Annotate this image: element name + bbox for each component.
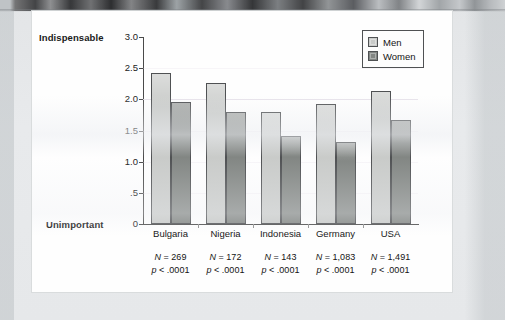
stat-annotation-usa: N = 1,491p < .0001 xyxy=(359,251,422,276)
stat-p-value: p < .0001 xyxy=(249,264,312,277)
stat-sample-size: N = 1,491 xyxy=(359,251,422,264)
gridline xyxy=(143,68,418,69)
bar-highlight xyxy=(172,103,190,129)
stat-annotation-indonesia: N = 143p < .0001 xyxy=(249,251,312,276)
stat-p-value: p < .0001 xyxy=(304,264,367,277)
stat-p-value: p < .0001 xyxy=(139,264,202,277)
stat-sample-size: N = 1,083 xyxy=(304,251,367,264)
y-tick-label: 0 xyxy=(133,218,138,229)
x-axis-label-germany: Germany xyxy=(308,228,363,239)
stat-annotation-bulgaria: N = 269p < .0001 xyxy=(139,251,202,276)
axis-bottom-label: Unimportant xyxy=(46,219,104,230)
bar-usa-men xyxy=(371,91,391,224)
x-axis-label-usa: USA xyxy=(363,228,418,239)
legend-label-men: Men xyxy=(383,37,401,48)
stat-p-symbol: p xyxy=(152,265,157,275)
bar-indonesia-men xyxy=(261,112,281,224)
stat-sample-size: N = 269 xyxy=(139,251,202,264)
stat-annotation-nigeria: N = 172p < .0001 xyxy=(194,251,257,276)
bar-highlight xyxy=(337,143,355,161)
y-tick-label: 1.0 xyxy=(125,156,138,167)
stat-p-value: p < .0001 xyxy=(359,264,422,277)
legend-swatch-women xyxy=(368,51,378,61)
bar-bulgaria-women xyxy=(171,102,191,224)
stat-p-value: p < .0001 xyxy=(194,264,257,277)
legend: Men Women xyxy=(362,30,424,68)
bar-highlight xyxy=(152,74,170,107)
bar-indonesia-women xyxy=(281,136,301,224)
y-tick-label: 1.5 xyxy=(125,125,138,136)
y-tick-label: 3.0 xyxy=(125,31,138,42)
bar-highlight xyxy=(372,92,390,121)
bar-highlight xyxy=(392,121,410,143)
figure-page: Indispensable Unimportant 3.02.52.01.51.… xyxy=(32,11,452,292)
stat-n-symbol: N xyxy=(371,252,378,262)
stat-p-symbol: p xyxy=(317,265,322,275)
stat-sample-size: N = 143 xyxy=(249,251,312,264)
scanner-artifact-band xyxy=(0,0,505,11)
grouped-bar-chart: Indispensable Unimportant 3.02.52.01.51.… xyxy=(32,11,452,292)
stat-annotation-germany: N = 1,083p < .0001 xyxy=(304,251,367,276)
bar-highlight xyxy=(282,137,300,156)
y-tick-label: .5 xyxy=(130,187,138,198)
stat-p-symbol: p xyxy=(207,265,212,275)
stat-n-symbol: N xyxy=(265,252,272,262)
bar-usa-women xyxy=(391,120,411,224)
y-tick-label: 2.5 xyxy=(125,62,138,73)
stat-sample-size: N = 172 xyxy=(194,251,257,264)
x-axis-line xyxy=(143,224,419,225)
bar-germany-women xyxy=(336,142,356,224)
stat-p-symbol: p xyxy=(262,265,267,275)
bar-highlight xyxy=(207,84,225,115)
x-axis-label-bulgaria: Bulgaria xyxy=(143,228,198,239)
y-tick-label: 2.0 xyxy=(125,93,138,104)
bar-bulgaria-men xyxy=(151,73,171,224)
bar-highlight xyxy=(227,113,245,137)
bar-highlight xyxy=(317,105,335,131)
stat-n-symbol: N xyxy=(316,252,323,262)
y-tick-mark xyxy=(139,224,143,225)
bar-germany-men xyxy=(316,104,336,224)
legend-item-men: Men xyxy=(368,35,416,49)
x-axis-label-indonesia: Indonesia xyxy=(253,228,308,239)
legend-item-women: Women xyxy=(368,49,416,63)
bar-nigeria-men xyxy=(206,83,226,224)
x-axis-label-nigeria: Nigeria xyxy=(198,228,253,239)
bar-nigeria-women xyxy=(226,112,246,224)
y-tick-mark xyxy=(139,37,143,38)
stat-n-symbol: N xyxy=(155,252,162,262)
stat-p-symbol: p xyxy=(372,265,377,275)
legend-swatch-men xyxy=(368,37,378,47)
y-axis-tick-labels: 3.02.52.01.51.0.50 xyxy=(110,11,138,292)
axis-top-label: Indispensable xyxy=(39,32,104,43)
legend-label-women: Women xyxy=(383,51,416,62)
stat-n-symbol: N xyxy=(210,252,217,262)
bar-highlight xyxy=(262,113,280,137)
